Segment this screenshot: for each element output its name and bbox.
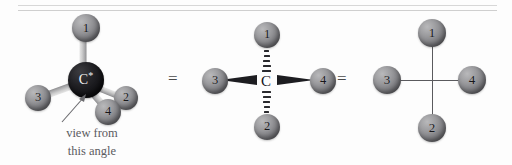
view-angle-annotation: view from this angle [32,124,152,160]
line-atom-label-2: 2 [429,120,436,136]
line-atom-3: 3 [373,66,401,94]
wedge-atom-label-1: 1 [264,27,270,42]
hash-bond-up-seg-1 [264,50,269,52]
atom-sphere-3: 3 [25,85,51,111]
hash-bond-up-seg-2 [264,55,270,57]
wedge-dash-model: C 1 2 3 4 [185,0,340,165]
hash-bond-down-seg-1 [262,91,271,93]
line-atom-label-3: 3 [384,72,391,88]
hash-bond-down-seg-5 [264,111,269,113]
wedge-carbon-label: C [261,74,271,89]
line-atom-1: 1 [418,19,446,47]
wedge-atom-2: 2 [254,114,280,140]
atom-label-3: 3 [35,90,41,105]
view-direction-arrow [58,92,94,126]
wedge-bond-right [277,75,314,85]
wedge-atom-4: 4 [310,68,336,94]
stereocenter-asterisk: * [88,70,93,81]
hash-bond-up-seg-5 [262,70,271,72]
equals-sign-1: = [168,70,178,87]
atom-label-1: 1 [83,20,90,36]
hash-bond-down-seg-4 [264,106,270,108]
wedge-atom-label-4: 4 [320,73,326,88]
wedge-atom-3: 3 [202,68,228,94]
line-drawing-model: 1 2 3 4 [355,0,512,165]
atom-label-4: 4 [105,104,111,119]
chemistry-figure: 2 3 4 1 C* view from this angle [0,0,512,165]
line-atom-2: 2 [418,114,446,142]
hash-bond-up-seg-3 [263,60,270,62]
annotation-line-2: this angle [32,142,152,160]
hash-bond-up-seg-4 [263,65,271,67]
ball-and-stick-model: 2 3 4 1 C* view from this angle [0,0,165,165]
wedge-atom-label-2: 2 [264,119,270,134]
line-atom-4: 4 [458,66,486,94]
atom-label-2: 2 [123,90,129,105]
hash-bond-down-seg-2 [263,96,271,98]
carbon-label: C [79,72,88,87]
wedge-atom-label-3: 3 [212,73,218,88]
line-atom-label-1: 1 [429,25,436,41]
atom-sphere-1: 1 [72,14,100,42]
equals-sign-2: = [337,70,347,87]
atom-sphere-4: 4 [95,99,121,125]
line-atom-label-4: 4 [469,72,476,88]
hash-bond-down-seg-3 [263,101,270,103]
wedge-atom-1: 1 [254,22,280,48]
annotation-line-1: view from [32,124,152,142]
